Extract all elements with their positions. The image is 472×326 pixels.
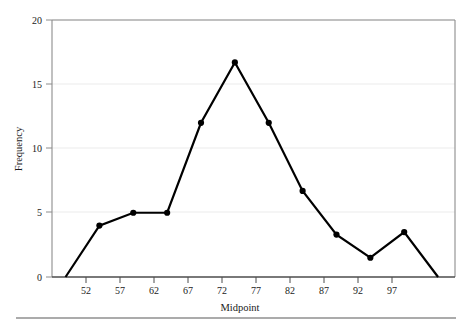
ytick-label-15: 15 — [32, 79, 42, 90]
xtick-label-67: 67 — [183, 285, 193, 296]
data-point-62 — [164, 210, 170, 216]
data-point-92 — [367, 255, 373, 261]
data-point-87 — [333, 231, 339, 237]
x-axis-title: Midpoint — [220, 302, 259, 313]
chart-canvas: 20 15 10 5 0 52 57 62 67 72 77 82 87 — [0, 0, 472, 326]
data-point-97 — [401, 229, 407, 235]
xtick-label-57: 57 — [115, 285, 125, 296]
xtick-label-92: 92 — [353, 285, 363, 296]
xtick-label-97: 97 — [387, 285, 397, 296]
ytick-label-0: 0 — [37, 272, 42, 283]
ytick-label-10: 10 — [32, 143, 42, 154]
data-point-67 — [198, 120, 204, 126]
xtick-label-82: 82 — [285, 285, 295, 296]
xtick-label-52: 52 — [81, 285, 91, 296]
data-point-82 — [300, 188, 306, 194]
data-point-57 — [130, 210, 136, 216]
data-point-77 — [266, 120, 272, 126]
xtick-label-77: 77 — [251, 285, 261, 296]
xtick-label-62: 62 — [149, 285, 159, 296]
frequency-polygon-figure: 20 15 10 5 0 52 57 62 67 72 77 82 87 — [0, 0, 472, 326]
data-point-52 — [96, 223, 102, 229]
xtick-label-72: 72 — [217, 285, 227, 296]
xtick-label-87: 87 — [319, 285, 329, 296]
ytick-label-5: 5 — [37, 207, 42, 218]
ytick-label-20: 20 — [32, 15, 42, 26]
y-axis-title: Frequency — [13, 126, 24, 171]
data-point-72 — [232, 59, 238, 65]
